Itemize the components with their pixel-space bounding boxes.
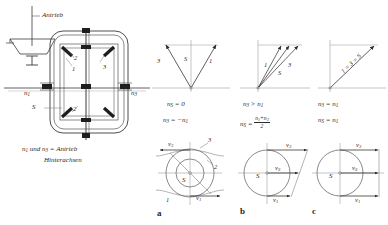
v2-arrow-label-S: S xyxy=(278,70,281,77)
c-v1-label: v1 xyxy=(355,197,360,205)
c-v3-label: v3 xyxy=(356,142,361,150)
figure-canvas xyxy=(0,0,388,225)
v2-arrow-label-1: 1 xyxy=(264,62,267,69)
vector-3-a xyxy=(166,45,191,88)
v2-arrow-label-3: 3 xyxy=(288,62,291,69)
circle-diagram-b xyxy=(238,143,308,204)
a-v3-label: v3 xyxy=(168,141,173,149)
v1-condition: nS = 0 xyxy=(167,101,185,108)
a-v1-label: v1 xyxy=(196,195,201,203)
mechanism-drawing xyxy=(4,6,150,140)
part-label-1: 1 xyxy=(72,66,75,73)
b-center-label: S xyxy=(256,173,260,180)
bevel-gears xyxy=(62,47,114,117)
a-center-label: S xyxy=(182,177,186,184)
a-ring-label-2: 2 xyxy=(214,164,217,171)
origin-2 xyxy=(257,87,259,89)
a-ring-label-3: 3 xyxy=(208,137,211,144)
vector-diagram-2 xyxy=(240,40,310,92)
center-c xyxy=(339,172,341,174)
v2-fraction: n1+n3 2 xyxy=(254,115,269,129)
v1-arrow-label-3: 3 xyxy=(157,58,160,65)
b-vS-label: vS xyxy=(275,165,280,173)
support-column xyxy=(26,56,38,65)
caption-b: b xyxy=(240,207,245,216)
v3-relation: nS = n1 xyxy=(318,117,338,124)
leader-3-a xyxy=(200,143,208,148)
part-label-2-top: 2 xyxy=(74,55,77,62)
b-v1-label: v1 xyxy=(273,197,278,205)
cage-S-label: S xyxy=(32,104,36,111)
v1-arrow-label-1: 1 xyxy=(209,58,212,65)
c-center-label: S xyxy=(329,173,333,180)
v1-relation: n3 = −n1 xyxy=(163,117,188,124)
origin-1 xyxy=(190,87,192,89)
leader-2-a xyxy=(207,160,213,165)
c-vS-label: vS xyxy=(352,165,357,173)
v1-arrow-label-S: S xyxy=(184,56,187,63)
antrieb-label: Antrieb xyxy=(42,12,63,19)
n3-shaft-label: n3 xyxy=(131,90,137,97)
b-v3-label: v3 xyxy=(286,142,291,150)
part-label-3: 3 xyxy=(103,64,106,71)
mechanism-caption-line1: n1 und n3 = Antrieb xyxy=(22,146,77,153)
v2-relation: nS = n1+n3 2 xyxy=(240,115,270,129)
center-b xyxy=(266,172,268,174)
vector-1-a xyxy=(191,45,216,88)
part-label-2-bottom: 2 xyxy=(73,106,76,113)
origin-3 xyxy=(329,87,331,89)
a-ring-label-1: 1 xyxy=(166,197,169,204)
center-a xyxy=(189,172,191,174)
v3-condition: n3 = n1 xyxy=(318,101,338,108)
circle-diagram-c xyxy=(312,143,384,204)
n1-shaft-label: n1 xyxy=(24,90,30,97)
mechanism-caption-line2: Hinterachsen xyxy=(44,157,82,164)
bevel-housing xyxy=(6,39,55,54)
vector-diagram-1 xyxy=(152,40,230,92)
vector-S-b xyxy=(258,46,289,88)
caption-c: c xyxy=(312,207,316,216)
caption-a: a xyxy=(157,209,162,218)
v2-condition: n3 > n1 xyxy=(243,101,263,108)
